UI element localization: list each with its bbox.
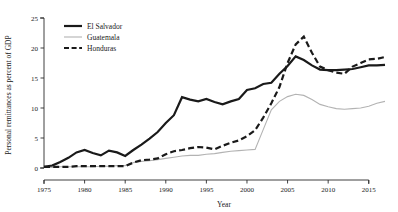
x-tick-marks	[44, 180, 369, 184]
x-tick-label: 1975	[37, 186, 52, 194]
y-tick-label: 20	[31, 45, 39, 53]
chart-legend: El SalvadorGuatemalaHonduras	[64, 22, 123, 53]
y-tick-label: 0	[35, 165, 39, 173]
y-tick-label: 15	[31, 75, 39, 83]
legend-label: Guatemala	[87, 33, 120, 42]
y-axis: 0510152025 Personal remittances as perce…	[4, 15, 44, 173]
y-tick-labels: 0510152025	[31, 15, 39, 173]
x-tick-label: 1980	[78, 186, 93, 194]
x-tick-label: 2010	[321, 186, 336, 194]
chart-figure: 0510152025 Personal remittances as perce…	[0, 0, 398, 212]
legend-label: Honduras	[87, 44, 116, 53]
y-tick-label: 25	[31, 15, 39, 23]
y-axis-title: Personal remittances as percent of GDP	[4, 35, 13, 154]
x-axis-title: Year	[217, 200, 231, 209]
x-tick-label: 1985	[118, 186, 133, 194]
y-tick-label: 10	[31, 105, 39, 113]
y-tick-marks	[41, 18, 45, 168]
legend-label: El Salvador	[87, 22, 123, 31]
x-tick-label: 1990	[159, 186, 174, 194]
x-tick-label: 2000	[240, 186, 255, 194]
x-tick-label: 1995	[199, 186, 214, 194]
x-tick-labels: 197519801985199019952000200520102015	[37, 186, 376, 194]
remittances-line-chart: 0510152025 Personal remittances as perce…	[0, 0, 398, 212]
series-line-el-salvador	[44, 56, 385, 166]
data-series-group	[44, 37, 385, 168]
x-tick-label: 2005	[281, 186, 296, 194]
x-axis: 197519801985199019952000200520102015 Yea…	[37, 180, 376, 209]
y-tick-label: 5	[35, 135, 39, 143]
series-line-guatemala	[44, 94, 385, 167]
x-tick-label: 2015	[362, 186, 377, 194]
y-axis-line	[40, 18, 44, 168]
